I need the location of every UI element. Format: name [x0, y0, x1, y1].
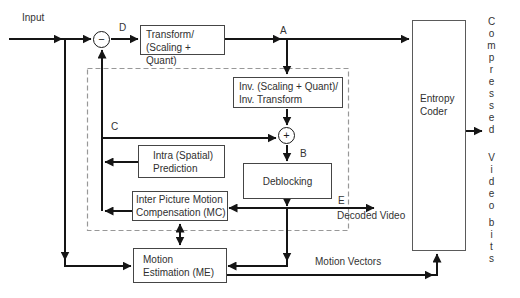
signal-label-e: E: [338, 195, 345, 206]
block-label: (Scaling + Quant): [146, 41, 224, 67]
block-label: Inv. (Scaling + Quant)/: [239, 80, 342, 93]
inverse-transform-block: Inv. (Scaling + Quant)/ Inv. Transform: [233, 77, 343, 108]
plus-sign: +: [283, 130, 289, 141]
block-label: Compensation (MC): [136, 207, 227, 220]
block-label: Entropy: [420, 92, 465, 105]
entropy-coder-block: Entropy Coder: [412, 20, 466, 251]
signal-label-a: A: [280, 25, 287, 36]
block-label: Intra (Spatial): [153, 149, 224, 162]
block-label: Prediction: [153, 162, 224, 175]
input-label: Input: [22, 12, 44, 23]
block-label: Motion: [143, 253, 226, 266]
motion-estimation-block: Motion Estimation (ME): [133, 248, 227, 283]
bits-word: bits: [485, 217, 497, 265]
motion-vectors-label: Motion Vectors: [315, 256, 381, 267]
motion-compensation-block: Inter Picture Motion Compensation (MC): [132, 191, 228, 221]
decoded-video-label: Decoded Video: [337, 210, 405, 221]
wire-coeff-a: [225, 39, 409, 74]
signal-label-b: B: [300, 148, 307, 159]
subtract-node-icon: −: [93, 31, 110, 48]
encoder-block-diagram: Transform/ (Scaling + Quant) Inv. (Scali…: [0, 0, 520, 298]
wire-input: [9, 39, 131, 266]
block-label: Inter Picture Motion: [136, 194, 227, 207]
intra-prediction-block: Intra (Spatial) Prediction: [138, 145, 225, 178]
compressed-word: Compressed: [485, 16, 497, 136]
subtract-sign: −: [98, 34, 104, 45]
block-label: Transform/: [146, 28, 224, 41]
video-word: Video: [485, 152, 497, 212]
signal-label-c: C: [111, 121, 118, 132]
add-node-icon: +: [278, 127, 295, 144]
deblocking-block: Deblocking: [243, 163, 332, 199]
block-label: Deblocking: [263, 175, 312, 188]
signal-label-d: D: [119, 22, 126, 33]
block-label: Coder: [420, 105, 465, 118]
block-label: Inv. Transform: [239, 93, 342, 106]
transform-quant-block: Transform/ (Scaling + Quant): [140, 25, 225, 55]
block-label: Estimation (ME): [143, 266, 226, 279]
